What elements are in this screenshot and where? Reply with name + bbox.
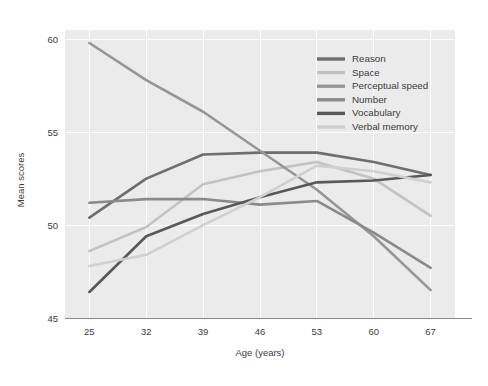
y-tick-label: 45	[47, 313, 58, 324]
x-tick-label: 60	[368, 326, 379, 337]
x-tick-label: 39	[198, 326, 209, 337]
x-tick-label: 32	[141, 326, 152, 337]
x-tick-label: 53	[312, 326, 323, 337]
y-tick-label: 60	[47, 34, 58, 45]
legend-label: Number	[352, 94, 388, 105]
x-tick-label: 25	[84, 326, 95, 337]
y-tick-label: 50	[47, 220, 58, 231]
legend-label: Verbal memory	[352, 121, 418, 132]
y-axis-title: Mean scores	[15, 153, 26, 208]
legend-label: Reason	[352, 53, 386, 64]
legend-label: Perceptual speed	[352, 80, 428, 91]
legend-label: Space	[352, 67, 380, 78]
x-tick-label: 46	[255, 326, 266, 337]
line-chart: 25323946536067 45505560 Age (years) Mean…	[0, 0, 488, 386]
x-axis-title: Age (years)	[235, 347, 284, 358]
x-tick-label: 67	[425, 326, 436, 337]
legend-label: Vocabulary	[352, 107, 401, 118]
y-tick-label: 55	[47, 127, 58, 138]
